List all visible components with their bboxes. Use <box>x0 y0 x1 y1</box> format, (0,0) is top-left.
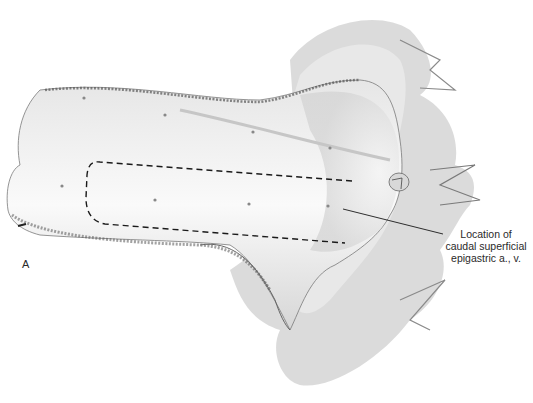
callout-label: Location of caudal superficial epigastri… <box>440 228 532 264</box>
callout-line-1: Location of <box>440 228 532 240</box>
callout-line-3: epigastric a., v. <box>440 252 532 264</box>
anatomy-illustration <box>0 0 533 403</box>
figure-canvas: Location of caudal superficial epigastri… <box>0 0 533 403</box>
panel-letter: A <box>22 258 29 270</box>
callout-line-2: caudal superficial <box>440 240 532 252</box>
orifice-mark <box>389 173 409 191</box>
